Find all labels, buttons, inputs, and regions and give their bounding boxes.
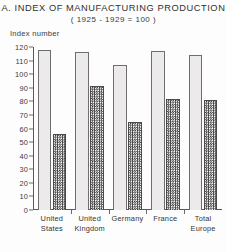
bar-group [109,47,147,210]
bar-dark-bar [128,122,142,210]
chart-subtitle: ( 1925 - 1929 = 100 ) [0,15,227,24]
bar-light-bar [75,52,89,210]
bar-group [184,47,222,210]
bar-group [146,47,184,210]
chart-title: A. INDEX OF MANUFACTURING PRODUCTION [0,3,227,13]
bar-dark-bar [53,134,67,210]
bar-group [71,47,109,210]
x-axis-category-label: TotalEurope [180,214,226,233]
bar-dark-bar [90,86,104,210]
bar-group [33,47,71,210]
bar-light-bar [113,65,127,210]
bar-dark-bar [166,99,180,210]
chart-figure: A. INDEX OF MANUFACTURING PRODUCTION ( 1… [0,0,227,252]
y-axis-label: Index number [10,29,59,38]
bar-dark-bar [204,100,218,210]
bar-light-bar [189,55,203,210]
bar-light-bar [151,51,165,210]
bar-light-bar [38,50,52,210]
plot-area: 0102030405060708090100110120 [33,47,222,210]
